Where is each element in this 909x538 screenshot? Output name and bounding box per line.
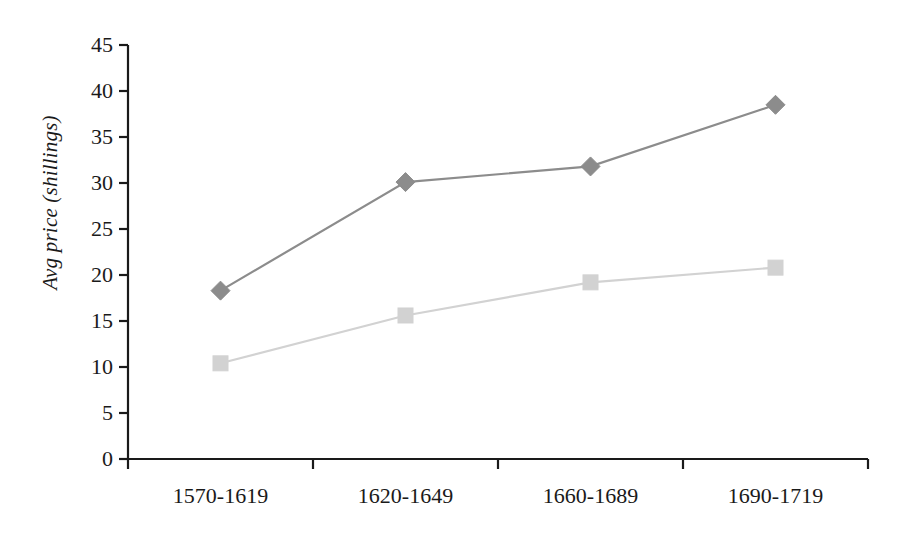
data-point-marker	[768, 260, 783, 275]
data-point-marker	[583, 275, 598, 290]
data-point-marker	[581, 157, 600, 176]
data-point-marker	[766, 95, 785, 114]
data-point-marker	[213, 356, 228, 371]
series-square	[213, 260, 783, 371]
data-point-marker	[396, 173, 415, 192]
axes	[119, 45, 868, 469]
data-point-marker	[398, 308, 413, 323]
plot-area	[0, 0, 909, 538]
data-series	[211, 95, 785, 371]
line-chart: Avg price (shillings) 051015202530354045…	[0, 0, 909, 538]
data-point-marker	[211, 281, 230, 300]
series-diamond	[211, 95, 785, 300]
